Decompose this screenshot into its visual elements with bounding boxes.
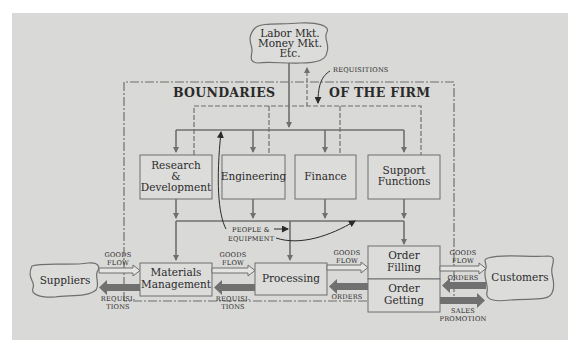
svg-text:Order: Order bbox=[388, 249, 421, 261]
requisitions-arrow-to-materials bbox=[214, 280, 255, 295]
svg-text:SALES: SALES bbox=[451, 307, 475, 315]
sales-promotion-arrow bbox=[440, 293, 485, 308]
people-equipment-label-2: EQUIPMENT bbox=[228, 235, 275, 243]
svg-text:FLOW: FLOW bbox=[336, 257, 358, 265]
finance-box: Finance bbox=[295, 155, 356, 199]
rnd-box: Research & Development bbox=[140, 155, 212, 199]
svg-text:GOODS: GOODS bbox=[220, 251, 247, 259]
svg-text:Getting: Getting bbox=[384, 294, 424, 306]
markets-cloud: Labor Mkt. Money Mkt. Etc. bbox=[250, 23, 328, 63]
processing-box: Processing bbox=[255, 263, 327, 295]
of-the-firm-title: OF THE FIRM bbox=[329, 85, 430, 100]
order-filling-box: Order Filling bbox=[368, 246, 440, 279]
svg-text:Engineering: Engineering bbox=[221, 170, 287, 182]
customers-cloud: Customers bbox=[485, 256, 554, 301]
svg-text:Materials: Materials bbox=[151, 266, 202, 278]
svg-text:Functions: Functions bbox=[378, 175, 431, 187]
requisitions-arrow-to-suppliers bbox=[99, 280, 140, 295]
svg-text:FLOW: FLOW bbox=[452, 257, 474, 265]
support-functions-box: Support Functions bbox=[368, 155, 440, 199]
svg-text:PROMOTION: PROMOTION bbox=[440, 315, 487, 323]
svg-text:GOODS: GOODS bbox=[450, 249, 477, 257]
materials-management-box: Materials Management bbox=[140, 263, 212, 296]
suppliers-cloud: Suppliers bbox=[30, 263, 99, 297]
svg-text:Filling: Filling bbox=[387, 261, 421, 273]
svg-text:Development: Development bbox=[141, 181, 212, 193]
svg-text:Finance: Finance bbox=[304, 170, 347, 182]
requisitions-top-label: REQUISITIONS bbox=[333, 66, 389, 74]
svg-text:ORDERS: ORDERS bbox=[447, 274, 478, 282]
svg-text:TIONS: TIONS bbox=[221, 303, 245, 311]
svg-text:Suppliers: Suppliers bbox=[40, 274, 91, 286]
boundaries-title: BOUNDARIES bbox=[173, 85, 275, 100]
svg-text:Processing: Processing bbox=[262, 272, 320, 284]
svg-text:REQUISI-: REQUISI- bbox=[216, 295, 250, 303]
svg-text:ORDERS: ORDERS bbox=[331, 293, 362, 301]
svg-text:REQUISI-: REQUISI- bbox=[101, 295, 135, 303]
svg-text:Order: Order bbox=[388, 282, 421, 294]
svg-text:Customers: Customers bbox=[491, 271, 548, 283]
firm-boundaries-diagram: BOUNDARIES OF THE FIRM Labor Mkt. Money … bbox=[0, 0, 579, 350]
order-getting-box: Order Getting bbox=[368, 279, 440, 312]
svg-text:Management: Management bbox=[141, 278, 212, 290]
svg-text:GOODS: GOODS bbox=[334, 249, 361, 257]
orders-arrow-to-processing bbox=[329, 279, 368, 294]
svg-text:FLOW: FLOW bbox=[222, 259, 244, 267]
svg-text:FLOW: FLOW bbox=[107, 259, 129, 267]
engineering-box: Engineering bbox=[221, 155, 287, 199]
svg-text:GOODS: GOODS bbox=[105, 251, 132, 259]
svg-text:TIONS: TIONS bbox=[106, 303, 130, 311]
resource-distribution-bus bbox=[176, 63, 404, 152]
people-equipment-label-1: PEOPLE & bbox=[232, 226, 270, 234]
markets-line-3: Etc. bbox=[279, 47, 300, 59]
